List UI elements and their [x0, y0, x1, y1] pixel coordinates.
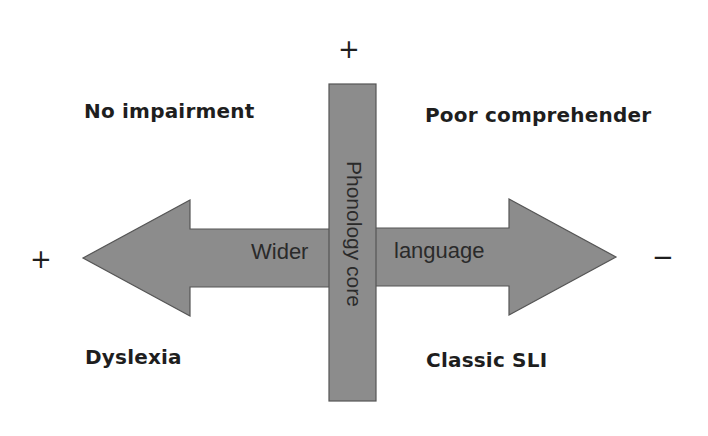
quadrant-label-top-right: Poor comprehender — [425, 103, 651, 127]
horizontal-axis-label-right: language — [394, 240, 485, 262]
horizontal-axis-minus-sign: − — [652, 244, 674, 270]
horizontal-axis-label-left: Wider — [251, 241, 308, 263]
quadrant-label-bottom-left: Dyslexia — [85, 345, 182, 369]
vertical-axis-label: Phonology core — [344, 161, 365, 307]
double-deficit-diagram: + + − No impairment Poor comprehender Dy… — [0, 0, 708, 436]
vertical-axis-plus-sign: + — [338, 36, 360, 62]
horizontal-axis-plus-sign: + — [30, 246, 52, 272]
quadrant-label-top-left: No impairment — [84, 99, 254, 123]
quadrant-label-bottom-right: Classic SLI — [426, 348, 547, 372]
